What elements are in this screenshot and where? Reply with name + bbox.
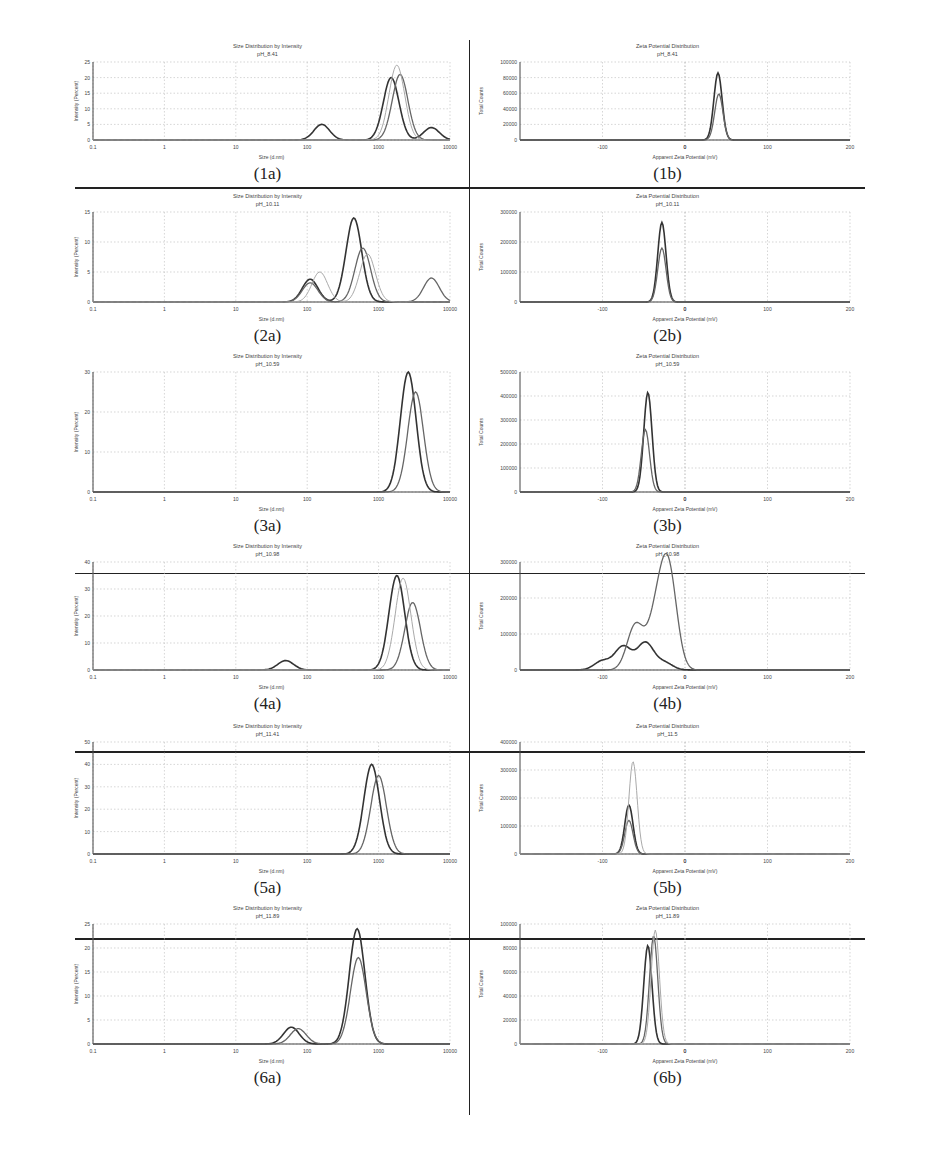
panel-caption: (5b): [628, 878, 708, 898]
x-tick-label: 10: [233, 1048, 239, 1054]
x-tick-label: 10: [233, 674, 239, 680]
x-axis-label: Size (d.nm): [259, 868, 285, 874]
y-axis-label: Intensity (Percent): [73, 595, 79, 636]
chart-panel-6a: Size Distribution by IntensitypH_11.8905…: [75, 902, 460, 1092]
chart-panel-4b: Zeta Potential DistributionpH_10.9801000…: [475, 540, 860, 718]
series-line: [93, 248, 450, 302]
x-tick-label: 100: [303, 306, 312, 312]
x-tick-label: 10: [233, 496, 239, 502]
series-line: [93, 372, 450, 492]
panel-caption: (2b): [628, 326, 708, 346]
y-tick-label: 0: [87, 489, 90, 495]
y-tick-label: 5: [87, 269, 90, 275]
x-tick-label: 10000: [443, 674, 457, 680]
chart-subtitle: pH_11.5: [657, 731, 677, 737]
y-tick-label: 100000: [500, 465, 517, 471]
y-tick-label: 10: [84, 993, 90, 999]
y-tick-label: 25: [84, 59, 90, 65]
y-axis-label: Intensity (Percent): [73, 236, 79, 277]
y-tick-label: 20: [84, 409, 90, 415]
x-tick-label: 10000: [443, 858, 457, 864]
y-tick-label: 0: [514, 489, 517, 495]
y-tick-label: 60000: [503, 90, 517, 96]
chart-title: Size Distribution by Intensity: [233, 193, 302, 199]
y-axis-label: Intensity (Percent): [73, 411, 79, 452]
figure-grid: Size Distribution by IntensitypH_8.41051…: [75, 40, 865, 1115]
y-tick-label: 5: [87, 121, 90, 127]
y-tick-label: 10: [84, 106, 90, 112]
x-tick-label: 100: [303, 144, 312, 150]
y-axis-label: Intensity (Percent): [73, 963, 79, 1004]
x-tick-label: 200: [846, 858, 855, 864]
x-axis-label: Apparent Zeta Potential (mV): [653, 154, 718, 160]
panel-caption: (5a): [228, 878, 308, 898]
chart-title: Zeta Potential Distribution: [636, 43, 699, 49]
x-tick-label: 100: [303, 674, 312, 680]
y-tick-label: 0: [514, 851, 517, 857]
x-tick-label: -100: [597, 496, 607, 502]
chart-title: Size Distribution by Intensity: [233, 723, 302, 729]
y-tick-label: 200000: [500, 441, 517, 447]
chart-panel-5b: Zeta Potential DistributionpH_11.5010000…: [475, 720, 860, 902]
svg-text:0: 0: [684, 144, 687, 150]
y-tick-label: 60000: [503, 969, 517, 975]
x-tick-label: 1: [163, 306, 166, 312]
series-line: [93, 603, 450, 670]
y-tick-label: 0: [514, 299, 517, 305]
panel-caption: (4b): [628, 694, 708, 714]
x-tick-label: 10000: [443, 1048, 457, 1054]
y-axis-label: Total Counts: [478, 243, 484, 271]
y-tick-label: 0: [514, 137, 517, 143]
x-axis-label: Size (d.nm): [259, 316, 285, 322]
y-tick-label: 0: [514, 667, 517, 673]
x-axis-label: Size (d.nm): [259, 506, 285, 512]
panel-caption: (4a): [228, 694, 308, 714]
y-tick-label: 500000: [500, 369, 517, 375]
y-tick-label: 200000: [500, 595, 517, 601]
y-tick-label: 400000: [500, 393, 517, 399]
y-tick-label: 100000: [500, 631, 517, 637]
chart-panel-5a: Size Distribution by IntensitypH_11.4101…: [75, 720, 460, 902]
y-tick-label: 0: [514, 1041, 517, 1047]
y-tick-label: 100000: [500, 269, 517, 275]
y-tick-label: 200000: [500, 239, 517, 245]
y-axis-label: Total Counts: [478, 418, 484, 446]
x-tick-label: 200: [846, 144, 855, 150]
series-line: [93, 65, 450, 140]
x-tick-label: 100: [303, 858, 312, 864]
panel-caption: (2a): [228, 326, 308, 346]
chart-subtitle: pH_10.98: [256, 551, 280, 557]
y-tick-label: 80000: [503, 75, 517, 81]
chart-panel-6b: Zeta Potential DistributionpH_11.8902000…: [475, 902, 860, 1092]
series-line: [93, 218, 450, 302]
y-tick-label: 10: [84, 239, 90, 245]
y-tick-label: 100000: [500, 823, 517, 829]
panel-caption: (1b): [628, 164, 708, 184]
x-axis-label: Size (d.nm): [259, 684, 285, 690]
y-tick-label: 20000: [503, 1017, 517, 1023]
y-tick-label: 20: [84, 806, 90, 812]
x-tick-label: 10: [233, 144, 239, 150]
y-tick-label: 30: [84, 586, 90, 592]
y-tick-label: 50: [84, 739, 90, 745]
y-tick-label: 300000: [500, 767, 517, 773]
chart-subtitle: pH_8.41: [257, 51, 278, 57]
x-tick-label: 100: [763, 306, 772, 312]
x-tick-label: 1000: [373, 306, 384, 312]
x-axis-label: Apparent Zeta Potential (mV): [653, 684, 718, 690]
chart-subtitle: pH_10.11: [256, 201, 279, 207]
y-tick-label: 40: [84, 761, 90, 767]
y-tick-label: 100000: [500, 59, 517, 65]
x-tick-label: 10000: [443, 144, 457, 150]
x-tick-label: 1: [163, 1048, 166, 1054]
x-tick-label: 1: [163, 496, 166, 502]
y-tick-label: 200000: [500, 795, 517, 801]
series-line: [93, 392, 450, 492]
y-tick-label: 300000: [500, 417, 517, 423]
x-tick-label: 1000: [373, 144, 384, 150]
series-line: [93, 75, 450, 141]
panel-caption: (3a): [228, 516, 308, 536]
chart-subtitle: pH_10.11: [656, 201, 679, 207]
chart-title: Size Distribution by Intensity: [233, 43, 302, 49]
x-tick-label: -100: [597, 144, 607, 150]
